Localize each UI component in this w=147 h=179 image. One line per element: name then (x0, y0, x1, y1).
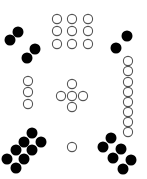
open-circle (56, 91, 65, 100)
open-circle (52, 26, 61, 35)
open-circle (123, 127, 132, 136)
filled-dot (116, 144, 127, 155)
filled-dot (122, 31, 133, 42)
filled-dot (111, 43, 122, 54)
open-circle (67, 102, 76, 111)
dot-pattern-figure (0, 0, 147, 179)
open-circle (83, 39, 92, 48)
filled-dot (11, 163, 22, 174)
filled-dot (106, 133, 117, 144)
dot-pattern-canvas (0, 0, 147, 179)
filled-dot (11, 145, 22, 156)
top-center-open-grid-3x3 (52, 14, 92, 48)
filled-dot (27, 128, 38, 139)
open-circle (52, 39, 61, 48)
open-circle (123, 97, 132, 106)
filled-dot (5, 35, 16, 46)
open-circle (67, 39, 76, 48)
filled-dot (22, 53, 33, 64)
open-circle (123, 77, 132, 86)
filled-dot (13, 27, 24, 38)
center-open-plus (56, 79, 87, 111)
open-circle (83, 14, 92, 23)
open-circle (52, 14, 61, 23)
open-circle (67, 91, 76, 100)
filled-dot (2, 154, 13, 165)
right-open-column (123, 56, 132, 136)
filled-dot (118, 164, 129, 175)
filled-dot (19, 137, 30, 148)
open-circle (67, 26, 76, 35)
filled-dot (30, 44, 41, 55)
open-circle (123, 56, 132, 65)
open-circle (23, 99, 32, 108)
filled-dot (126, 155, 137, 166)
open-circle (67, 79, 76, 88)
open-circle (123, 87, 132, 96)
filled-dot (27, 145, 38, 156)
bottom-left-filled-cluster (2, 128, 47, 174)
open-circle (83, 26, 92, 35)
filled-dot (108, 153, 119, 164)
open-circle (23, 76, 32, 85)
open-circle (123, 107, 132, 116)
open-circle (23, 87, 32, 96)
bottom-center-open-single (67, 142, 76, 151)
filled-dot (19, 154, 30, 165)
open-circle (78, 91, 87, 100)
open-circle (67, 14, 76, 23)
top-right-filled-pair (111, 31, 133, 54)
filled-dot (98, 142, 109, 153)
filled-dot (36, 137, 47, 148)
left-open-column (23, 76, 32, 108)
open-circle (67, 142, 76, 151)
open-circle (123, 66, 132, 75)
bottom-right-filled-cluster (98, 133, 137, 175)
open-circle (123, 117, 132, 126)
top-left-filled-pairs (5, 27, 41, 64)
